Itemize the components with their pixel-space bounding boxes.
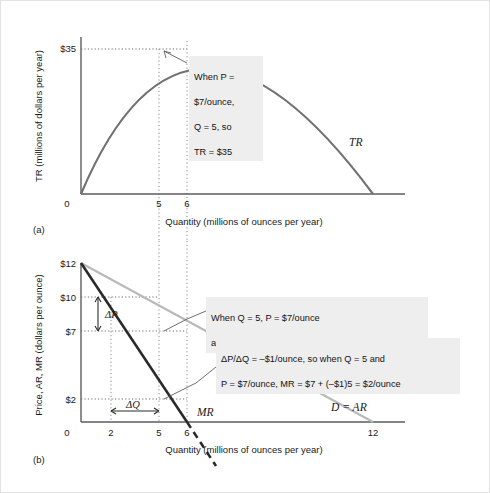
panel-b-xtick-5: 5 bbox=[156, 427, 161, 438]
panel-b-callout-mr: ΔP/ΔQ = –$1/ounce, so when Q = 5 and P =… bbox=[216, 338, 460, 394]
panel-a-origin-label: 0 bbox=[64, 198, 69, 209]
callout-b2-leader bbox=[164, 367, 216, 399]
panel-a-callout-line4: TR = $35 bbox=[194, 147, 232, 157]
panel-b-x-axis-title: Quantity (millions of ounces per year) bbox=[165, 444, 322, 455]
panel-b-callout2-line2: P = $7/ounce, MR = $7 + (–$1)5 = $2/ounc… bbox=[221, 379, 401, 389]
panel-a-xtick-5: 5 bbox=[156, 198, 161, 209]
panel-b-xtick-6: 6 bbox=[184, 427, 189, 438]
tr-curve-label: TR bbox=[349, 136, 362, 148]
panel-a-ytick-35: $35 bbox=[60, 43, 76, 54]
panel-b-origin-label: 0 bbox=[64, 427, 69, 438]
panel-a-callout-line2: $7/ounce, bbox=[194, 97, 234, 107]
delta-q-label: ΔQ bbox=[125, 399, 140, 410]
ar-curve-label: D = AR bbox=[330, 401, 367, 413]
panel-b-ytick-2: $2 bbox=[65, 394, 76, 405]
delta-p-label: ΔP bbox=[104, 309, 118, 320]
panel-b-xtick-12: 12 bbox=[368, 427, 379, 438]
panel-a-xtick-6: 6 bbox=[184, 198, 189, 209]
panel-b-callout2-line1: ΔP/ΔQ = –$1/ounce, so when Q = 5 and bbox=[221, 354, 385, 364]
panel-b-ytick-10: $10 bbox=[60, 292, 76, 303]
panel-b-label: (b) bbox=[33, 454, 45, 465]
panel-b-callout1-line1: When Q = 5, P = $7/ounce bbox=[211, 313, 320, 323]
figure-container: $35 0 5 6 TR Quantity (millions of ounce… bbox=[0, 0, 490, 493]
panel-a-callout-line3: Q = 5, so bbox=[194, 122, 232, 132]
panel-a-callout-leader bbox=[164, 51, 187, 63]
panel-a-callout-line1: When P = bbox=[194, 72, 234, 82]
panel-a-label: (a) bbox=[33, 224, 45, 235]
panel-b-xtick-2: 2 bbox=[108, 427, 113, 438]
panel-a-x-axis-title: Quantity (millions of ounces per year) bbox=[165, 216, 322, 227]
panel-b-ytick-7: $7 bbox=[65, 326, 76, 337]
panel-b-ytick-12: $12 bbox=[60, 258, 76, 269]
panel-b-y-axis-title: Price, AR, MR (dollars per ounce) bbox=[33, 274, 44, 416]
panel-a-y-axis-title: TR (millions of dollars per year) bbox=[33, 50, 44, 182]
mr-curve-label: MR bbox=[196, 406, 214, 418]
panel-a-callout: When P = $7/ounce, Q = 5, so TR = $35 bbox=[189, 56, 263, 161]
